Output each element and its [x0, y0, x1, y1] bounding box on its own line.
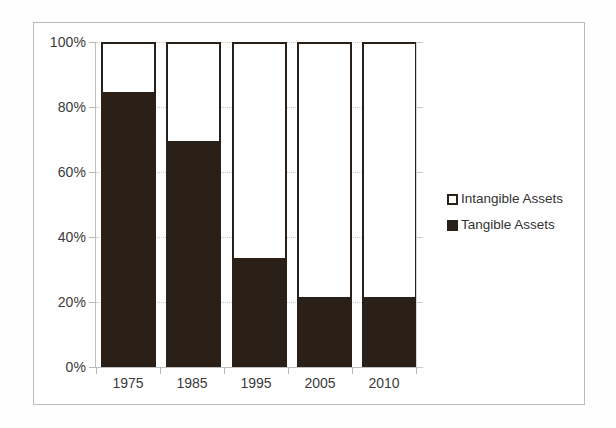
bar-1985 [166, 42, 221, 367]
y-axis-label-40: 40% [26, 229, 86, 245]
x-axis-label-1975: 1975 [93, 375, 163, 391]
bar-1975 [101, 42, 156, 367]
right-plot-border [416, 42, 417, 368]
bar-1995-tangible-segment [232, 260, 287, 367]
y-tick-right-40 [416, 237, 423, 238]
y-axis-label-60: 60% [26, 164, 86, 180]
y-axis-label-80: 80% [26, 99, 86, 115]
legend-item-tangible-assets: Tangible Assets [447, 212, 577, 238]
legend-swatch-filled-square-icon [447, 220, 458, 231]
y-tick-right-60 [416, 172, 423, 173]
y-tick-right-100 [416, 42, 423, 43]
legend-label-tangible-assets: Tangible Assets [461, 218, 555, 232]
y-tick-100 [89, 42, 96, 43]
legend-item-intangible-assets: Intangible Assets [447, 186, 577, 212]
bar-1995-intangible-segment [232, 42, 287, 260]
y-tick-40 [89, 237, 96, 238]
x-axis-label-2005: 2005 [285, 375, 355, 391]
y-axis-label-100: 100% [26, 34, 86, 50]
y-tick-right-0 [416, 367, 423, 368]
plot-area [96, 42, 416, 367]
legend-swatch-hollow-square-icon [447, 194, 458, 205]
x-axis-label-2010: 2010 [349, 375, 419, 391]
x-tick-0 [96, 367, 97, 374]
y-tick-60 [89, 172, 96, 173]
bar-1975-tangible-segment [101, 94, 156, 367]
y-tick-right-80 [416, 107, 423, 108]
bar-2010-intangible-segment [362, 42, 417, 299]
x-tick-4 [352, 367, 353, 374]
y-tick-80 [89, 107, 96, 108]
bar-1975-intangible-segment [101, 42, 156, 94]
y-tick-20 [89, 302, 96, 303]
x-tick-2 [224, 367, 225, 374]
x-tick-1 [160, 367, 161, 374]
category-axis-line [95, 367, 417, 368]
legend-label-intangible-assets: Intangible Assets [461, 192, 563, 206]
bar-2005-intangible-segment [297, 42, 352, 299]
bar-2005-tangible-segment [297, 299, 352, 367]
bar-1985-intangible-segment [166, 42, 221, 143]
y-axis-labels: 100% 80% 60% 40% 20% 0% [22, 0, 86, 428]
bar-2005 [297, 42, 352, 367]
chart-legend: Intangible Assets Tangible Assets [447, 186, 577, 238]
x-tick-5 [416, 367, 417, 374]
y-tick-0 [89, 367, 96, 368]
bar-2010-tangible-segment [362, 299, 417, 367]
bar-1995 [232, 42, 287, 367]
chart-figure: 100% 80% 60% 40% 20% 0% [0, 0, 616, 428]
x-axis-label-1985: 1985 [157, 375, 227, 391]
value-axis-line [95, 42, 96, 368]
x-axis-label-1995: 1995 [221, 375, 291, 391]
y-axis-label-20: 20% [26, 294, 86, 310]
bar-1985-tangible-segment [166, 143, 221, 367]
x-tick-3 [288, 367, 289, 374]
bar-2010 [362, 42, 417, 367]
y-tick-right-20 [416, 302, 423, 303]
y-axis-label-0: 0% [26, 359, 86, 375]
